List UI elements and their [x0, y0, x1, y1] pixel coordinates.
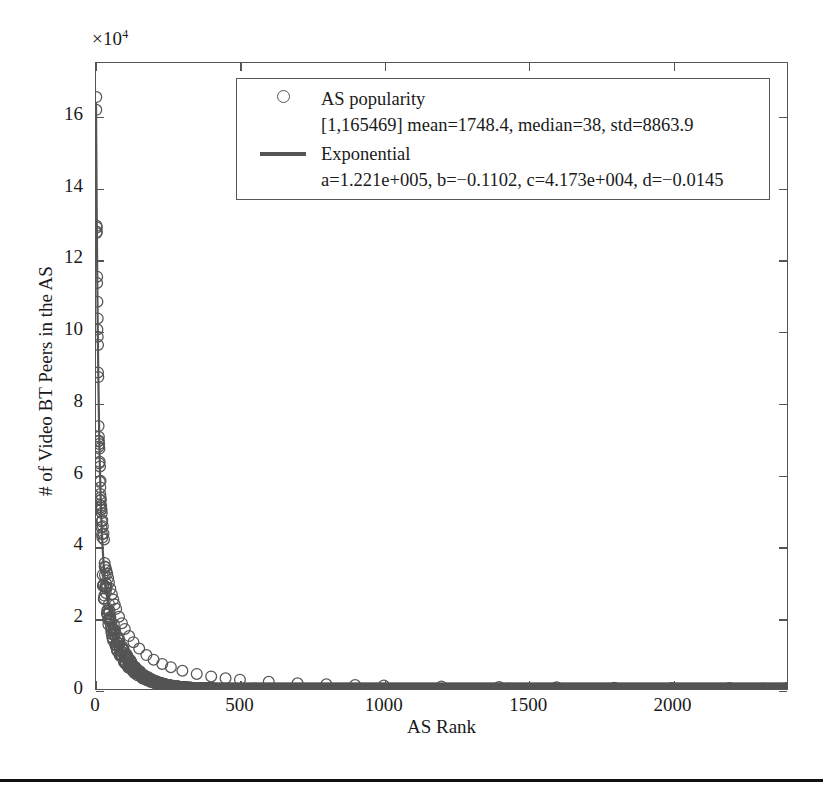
- y-tick: [96, 476, 104, 477]
- data-point: [134, 643, 145, 654]
- y-tick-label: 4: [23, 533, 83, 555]
- y-tick-label: 16: [23, 103, 83, 125]
- x-tick-label: 500: [194, 694, 284, 716]
- x-tick-top: [385, 681, 386, 689]
- y-tick-label: 6: [23, 462, 83, 484]
- y-tick-right: [779, 619, 787, 620]
- y-tick-right: [779, 189, 787, 190]
- legend-box: AS popularity [1,165469] mean=1748.4, me…: [236, 78, 770, 200]
- x-tick: [240, 63, 241, 71]
- x-tick: [529, 63, 530, 71]
- x-tick-label: 2000: [628, 694, 718, 716]
- x-tick: [96, 63, 97, 71]
- y-tick: [96, 547, 104, 548]
- y-tick-label: 2: [23, 605, 83, 627]
- y-tick: [96, 404, 104, 405]
- y-tick-right: [779, 117, 787, 118]
- y-tick-label: 14: [23, 175, 83, 197]
- y-tick-right: [779, 332, 787, 333]
- x-tick: [385, 63, 386, 71]
- x-tick-top: [240, 681, 241, 689]
- legend-stats-as-popularity: [1,165469] mean=1748.4, median=38, std=8…: [321, 115, 693, 136]
- y-tick-right: [779, 691, 787, 692]
- circle-marker-icon: [251, 89, 315, 107]
- legend-label-as-popularity: AS popularity: [321, 89, 425, 110]
- y-tick: [96, 691, 104, 692]
- line-marker-icon: [251, 144, 315, 162]
- y-tick-label: 8: [23, 390, 83, 412]
- y-tick: [96, 117, 104, 118]
- legend-params-exponential: a=1.221e+005, b=−0.1102, c=4.173e+004, d…: [321, 170, 723, 191]
- data-point: [206, 671, 217, 682]
- y-tick-label: 10: [23, 318, 83, 340]
- y-tick-right: [779, 404, 787, 405]
- y-tick-right: [779, 547, 787, 548]
- y-tick-right: [779, 476, 787, 477]
- x-tick: [674, 63, 675, 71]
- y-axis-title: # of Video BT Peers in the AS: [35, 67, 57, 695]
- y-tick: [96, 189, 104, 190]
- data-point: [177, 665, 188, 676]
- x-axis-title: AS Rank: [95, 716, 788, 738]
- y-tick: [96, 260, 104, 261]
- data-point: [191, 669, 202, 680]
- y-multiplier-exponent: 4: [122, 27, 128, 41]
- x-tick-top: [96, 681, 97, 689]
- x-tick-top: [674, 681, 675, 689]
- y-tick: [96, 332, 104, 333]
- y-tick-label: 12: [23, 246, 83, 268]
- y-axis-multiplier: ×104: [92, 27, 129, 50]
- figure-container: ×104 AS popularity [1,165469] mean=1748.…: [0, 0, 823, 796]
- data-point: [220, 673, 231, 684]
- x-tick-top: [529, 681, 530, 689]
- data-point: [96, 92, 102, 103]
- x-tick-label: 1000: [339, 694, 429, 716]
- legend-label-exponential: Exponential: [321, 144, 410, 165]
- x-tick-label: 1500: [483, 694, 573, 716]
- y-multiplier-base: ×10: [92, 28, 122, 49]
- y-tick-right: [779, 260, 787, 261]
- footer-rule: [0, 779, 823, 782]
- y-tick-label: 0: [23, 677, 83, 699]
- y-tick: [96, 619, 104, 620]
